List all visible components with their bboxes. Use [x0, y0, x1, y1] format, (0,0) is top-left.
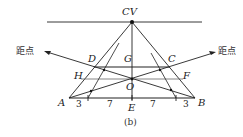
segment-label: 3 — [183, 99, 189, 109]
label-b: B — [197, 97, 205, 108]
intersect-dot — [90, 90, 92, 92]
label-a: A — [57, 97, 65, 108]
point-o-dot — [131, 78, 134, 81]
segment-label: 7 — [107, 99, 113, 109]
intersect-dot — [159, 69, 161, 71]
cv-point — [130, 20, 134, 24]
perspective-diagram: CV 距点 距点 D G C H F O A B E 3 7 7 3 (b) — [0, 0, 243, 137]
label-f: F — [182, 70, 191, 81]
figure-caption: (b) — [124, 117, 137, 127]
side-line-right — [132, 22, 195, 98]
label-h: H — [73, 70, 83, 81]
segment-label: 7 — [150, 99, 156, 109]
cv-label: CV — [122, 6, 139, 17]
label-d: D — [87, 53, 96, 64]
arrow-right-icon — [209, 51, 216, 55]
arrow-left-icon — [44, 51, 51, 55]
distance-point-right-label: 距点 — [218, 46, 236, 56]
side-line-left — [69, 22, 132, 98]
segment-label: 3 — [76, 99, 82, 109]
label-o: O — [126, 81, 134, 92]
label-g: G — [124, 53, 132, 64]
distance-point-left-label: 距点 — [16, 46, 34, 56]
intersect-dot — [170, 89, 172, 91]
label-e: E — [127, 102, 136, 113]
label-c: C — [168, 53, 176, 64]
intersect-dot — [103, 69, 105, 71]
